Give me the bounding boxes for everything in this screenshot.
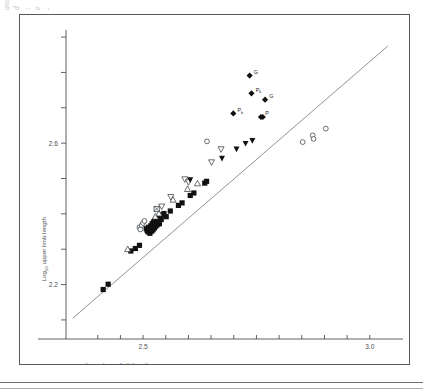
data-point xyxy=(137,243,142,248)
series-filled-triangle-down xyxy=(187,138,255,183)
data-point-label: G xyxy=(254,69,258,75)
axes-group: 2.22.62.53.0 xyxy=(38,30,403,350)
data-point xyxy=(101,287,106,292)
data-point xyxy=(185,186,191,192)
series-filled-square xyxy=(101,179,210,292)
data-point xyxy=(262,97,268,103)
data-point xyxy=(205,139,210,144)
data-point-label: G xyxy=(269,93,273,99)
regression-line xyxy=(73,46,388,318)
data-point xyxy=(168,208,173,213)
data-point xyxy=(248,90,254,96)
axis-titles-group: Log10 lower limb lengthLog10 upper limb … xyxy=(40,217,150,365)
data-point xyxy=(233,147,239,153)
data-point xyxy=(194,180,200,186)
x-tick-label: 3.0 xyxy=(365,343,374,350)
data-point xyxy=(323,126,328,131)
y-tick-label: 2.2 xyxy=(49,281,58,288)
data-point xyxy=(154,206,159,211)
data-point xyxy=(311,137,316,142)
page-margin-note: of o e and d : e - xyxy=(0,0,54,10)
scatter-plot: 2.22.62.53.0 PbPbPGG Log10 lower limb le… xyxy=(19,14,410,365)
y-axis-title: Log10 upper limb length xyxy=(40,217,49,282)
x-tick-label: 2.5 xyxy=(138,343,147,350)
data-point xyxy=(191,190,196,195)
data-point xyxy=(209,160,215,166)
data-point xyxy=(230,110,236,116)
data-point-sublabel: b xyxy=(241,111,243,115)
data-points-group: PbPbPGG xyxy=(101,69,329,292)
data-point xyxy=(142,219,147,224)
data-point xyxy=(247,73,253,79)
page-rule-bottom xyxy=(0,388,423,389)
x-axis-title: Log10 lower limb length xyxy=(86,361,150,365)
data-point xyxy=(218,147,224,153)
data-point xyxy=(249,138,255,144)
data-point xyxy=(106,282,111,287)
data-point-sublabel: b xyxy=(259,90,261,94)
data-point xyxy=(179,200,184,205)
data-point xyxy=(204,179,209,184)
data-point xyxy=(159,217,164,222)
data-point xyxy=(219,156,225,162)
data-point xyxy=(243,141,249,147)
data-point-label: P xyxy=(265,110,269,116)
series-open-square-x xyxy=(154,206,159,211)
data-point xyxy=(164,214,169,219)
y-tick-label: 2.6 xyxy=(49,140,58,147)
data-point xyxy=(300,140,305,145)
series-filled-diamond-labeled: PbPbPGG xyxy=(230,69,273,120)
reference-line-group xyxy=(73,46,388,318)
page-rule-top xyxy=(0,382,423,383)
